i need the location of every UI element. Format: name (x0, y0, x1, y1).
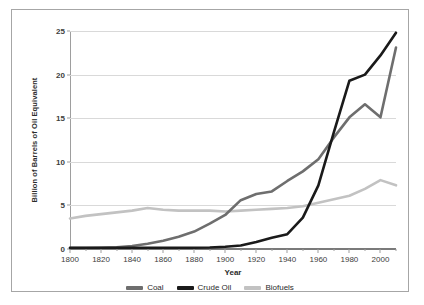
x-tick-mark-minor (209, 249, 210, 251)
y-tick-label: 15 (56, 114, 65, 123)
series-lines (70, 31, 396, 249)
x-tick-mark (194, 249, 195, 253)
x-tick-mark-minor (178, 249, 179, 251)
x-tick-label: 2000 (372, 255, 390, 264)
line-chart: Billion of Barrels of Oil Equivalent Yea… (12, 10, 408, 291)
x-tick-mark-minor (396, 249, 397, 251)
x-tick-mark (349, 249, 350, 253)
chart-frame: Billion of Barrels of Oil Equivalent Yea… (11, 9, 409, 292)
x-tick-mark-minor (116, 249, 117, 251)
x-tick-label: 1820 (92, 255, 110, 264)
x-tick-mark (70, 249, 71, 253)
x-tick-mark (287, 249, 288, 253)
series-line-biofuels (70, 180, 396, 218)
x-tick-label: 1880 (185, 255, 203, 264)
legend-item-coal[interactable]: Coal (126, 284, 163, 292)
x-tick-mark-minor (302, 249, 303, 251)
x-tick-label: 1960 (309, 255, 327, 264)
y-tick-label: 10 (56, 157, 65, 166)
x-axis-title: Year (70, 268, 396, 277)
y-tick-label: 0 (61, 245, 65, 254)
y-axis-title: Billion of Barrels of Oil Equivalent (28, 31, 40, 249)
x-tick-mark-minor (147, 249, 148, 251)
legend-item-biofuels[interactable]: Biofuels (244, 284, 293, 292)
x-tick-label: 1920 (247, 255, 265, 264)
x-tick-mark (380, 249, 381, 253)
y-tick-label: 5 (61, 201, 65, 210)
y-tick-label: 25 (56, 27, 65, 36)
x-tick-mark (256, 249, 257, 253)
legend-label: Biofuels (265, 284, 293, 292)
x-tick-mark (101, 249, 102, 253)
x-tick-label: 1980 (341, 255, 359, 264)
x-tick-label: 1800 (61, 255, 79, 264)
gridline (70, 249, 396, 250)
x-tick-mark (132, 249, 133, 253)
x-tick-label: 1840 (123, 255, 141, 264)
x-tick-mark-minor (271, 249, 272, 251)
legend-item-crude-oil[interactable]: Crude Oil (177, 284, 232, 292)
x-tick-label: 1940 (278, 255, 296, 264)
x-tick-label: 1900 (216, 255, 234, 264)
legend-swatch (244, 286, 261, 290)
legend-label: Coal (147, 284, 163, 292)
series-line-coal (70, 48, 396, 249)
legend-swatch (126, 286, 143, 290)
x-tick-mark-minor (333, 249, 334, 251)
x-tick-label: 1860 (154, 255, 172, 264)
x-tick-mark-minor (85, 249, 86, 251)
y-tick-label: 20 (56, 70, 65, 79)
x-tick-mark-minor (240, 249, 241, 251)
x-tick-mark (318, 249, 319, 253)
legend-label: Crude Oil (198, 284, 232, 292)
legend-swatch (177, 286, 194, 290)
x-tick-mark (225, 249, 226, 253)
plot-area: 0510152025 18001820184018601880190019201… (70, 31, 396, 249)
x-tick-mark (163, 249, 164, 253)
series-line-crude-oil (70, 33, 396, 248)
x-tick-mark-minor (364, 249, 365, 251)
chart-legend: CoalCrude OilBiofuels (12, 284, 408, 292)
